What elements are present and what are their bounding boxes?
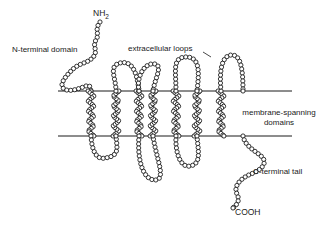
label-membrane-spanning-domains: membrane-spanning domains	[232, 108, 326, 128]
label-c-terminus: COOH	[235, 207, 261, 218]
membrane-label-line-1: membrane-spanning	[232, 108, 326, 118]
diagram-canvas: .mem-line { stroke: #1a1a1a; stroke-widt…	[0, 0, 329, 229]
nh2-text: NH	[93, 8, 105, 18]
label-n-terminal-domain: N-terminal domain	[12, 45, 77, 55]
label-extracellular-loops: extracellular loops	[128, 44, 192, 54]
nh2-subscript: 2	[105, 13, 109, 20]
membrane-label-line-2: domains	[232, 118, 326, 128]
extracellular-loops-leader-line	[203, 52, 211, 57]
label-c-terminal-tail: C-terminal tail	[253, 167, 302, 177]
label-n-terminus: NH2	[93, 8, 109, 20]
